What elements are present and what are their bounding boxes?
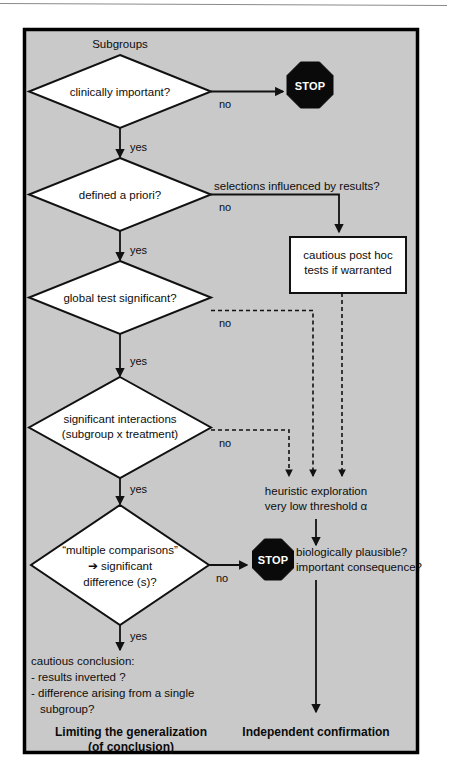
process-cautious-post-hoc-line1: cautious post hoc xyxy=(303,249,393,261)
annotation-cautious-conclusion-line4: subgroup? xyxy=(40,703,94,715)
edge-label-no-5: no xyxy=(216,572,228,584)
edge-label-yes-3: yes xyxy=(130,355,148,367)
page-rule-top xyxy=(0,4,447,6)
annotation-biologically-line2: important consequence? xyxy=(296,561,422,573)
decision-defined-a-priori-label: defined a priori? xyxy=(79,189,161,201)
decision-clinically-important-label: clinically important? xyxy=(70,86,170,98)
edge-label-yes-4: yes xyxy=(130,483,148,495)
edge-label-yes-5: yes xyxy=(130,630,148,642)
edge-label-no-4: no xyxy=(219,437,231,449)
edge-label-yes-2: yes xyxy=(130,244,148,256)
decision-multiple-comparisons-line3: difference (s)? xyxy=(83,576,156,588)
stop-bottom-label: STOP xyxy=(258,554,289,566)
annotation-cautious-conclusion-line2: - results inverted ? xyxy=(31,671,126,683)
edge-label-no-2: no xyxy=(219,201,231,213)
annotation-heuristic-line2: very low threshold α xyxy=(265,500,368,512)
annotation-cautious-conclusion-line3: - difference arising from a single xyxy=(31,687,194,699)
stop-top-label: STOP xyxy=(295,80,326,92)
figure-panel xyxy=(25,30,418,753)
annotation-selections-influenced: selections influenced by results? xyxy=(214,180,380,192)
flowchart-figure: Subgroups clinically important? no STOP … xyxy=(0,0,449,778)
annotation-heuristic-line1: heuristic exploration xyxy=(265,485,367,497)
annotation-biologically-line1: biologically plausible? xyxy=(296,546,407,558)
decision-multiple-comparisons-line1: “multiple comparisons” xyxy=(62,544,178,556)
decision-global-test-significant-label: global test significant? xyxy=(63,292,176,304)
decision-multiple-comparisons-line2: ➔ significant xyxy=(88,560,153,572)
footer-right-line1: Independent confirmation xyxy=(242,725,389,739)
edge-label-yes-1: yes xyxy=(130,141,148,153)
decision-significant-interactions-line1: significant interactions xyxy=(63,413,176,425)
annotation-cautious-conclusion-line1: cautious conclusion: xyxy=(31,655,135,667)
edge-label-no-1: no xyxy=(219,98,231,110)
footer-left-line1: Limiting the generalization xyxy=(55,725,207,739)
start-label: Subgroups xyxy=(92,38,148,50)
decision-significant-interactions-line2: (subgroup x treatment) xyxy=(62,428,179,440)
process-cautious-post-hoc-line2: tests if warranted xyxy=(304,264,392,276)
edge-label-no-3: no xyxy=(219,317,231,329)
footer-left-line2: (of conclusion) xyxy=(88,740,174,754)
